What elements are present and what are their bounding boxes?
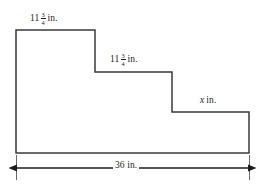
fraction: 3 4 bbox=[121, 53, 126, 67]
label-top-edge-length: 11 3 4 in. bbox=[30, 12, 58, 26]
label-second-step-length: 11 3 4 in. bbox=[110, 53, 138, 67]
variable-x: x bbox=[200, 95, 204, 105]
mixed-number-1: 11 3 4 bbox=[30, 12, 46, 26]
denominator: 4 bbox=[41, 20, 44, 26]
figure-svg bbox=[0, 0, 261, 184]
unit-label: in. bbox=[206, 96, 216, 106]
label-overall-width: 36 in. bbox=[113, 161, 139, 171]
geometry-figure: 11 3 4 in. 11 3 4 in. xin. 36 in. bbox=[0, 0, 261, 184]
numerator: 3 bbox=[121, 53, 124, 59]
denominator: 4 bbox=[121, 61, 124, 67]
whole-number: 11 bbox=[110, 55, 119, 65]
label-third-step-unknown: xin. bbox=[200, 96, 216, 106]
whole-number: 11 bbox=[30, 14, 39, 24]
unit-label: in. bbox=[48, 14, 58, 24]
mixed-number-2: 11 3 4 bbox=[110, 53, 126, 67]
numerator: 3 bbox=[41, 12, 44, 18]
staircase-polygon-outline bbox=[16, 30, 249, 153]
unit-label: in. bbox=[128, 55, 138, 65]
fraction: 3 4 bbox=[41, 12, 46, 26]
